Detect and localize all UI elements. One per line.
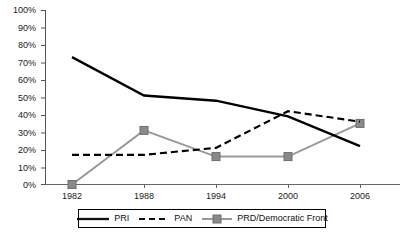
x-tick-label-1988: 1988 [124,192,164,201]
x-tick-label-2000: 2000 [268,192,308,201]
series-line-pri [72,57,360,146]
legend-entry-pan: PAN [138,214,192,224]
x-tick-label-1994: 1994 [196,192,236,201]
legend-swatch-solid-line-icon [76,214,110,224]
y-tick-label-50: 50% [2,94,36,103]
x-tick-label-2006: 2006 [340,192,380,201]
y-tick-label-0: 0% [2,181,36,190]
y-tick-label-60: 60% [2,76,36,85]
y-tick-label-30: 30% [2,129,36,138]
legend-swatch-dashed-line-icon [138,214,170,224]
y-tick-label-20: 20% [2,146,36,155]
legend-swatch-square-marker-line-icon [201,213,233,225]
legend-entry-pri: PRI [76,214,129,224]
x-axis-ticks [73,185,361,189]
y-tick-label-70: 70% [2,59,36,68]
y-tick-label-40: 40% [2,111,36,120]
series-line-pan [72,111,360,155]
x-tick-label-1982: 1982 [52,192,92,201]
y-tick-label-100: 100% [2,6,36,15]
y-tick-label-90: 90% [2,24,36,33]
legend-label-prd: PRD/Democratic Front [237,214,328,223]
legend-entry-prd: PRD/Democratic Front [201,213,328,225]
y-axis-ticks [41,11,46,185]
chart-container: 100% 90% 80% 70% 60% 50% 40% 30% 20% 10%… [0,0,405,234]
legend-label-pri: PRI [114,214,129,223]
chart-legend: PRI PAN PRD/Democratic Front [78,209,326,228]
y-tick-label-80: 80% [2,41,36,50]
y-tick-label-10: 10% [2,164,36,173]
legend-label-pan: PAN [174,214,192,223]
